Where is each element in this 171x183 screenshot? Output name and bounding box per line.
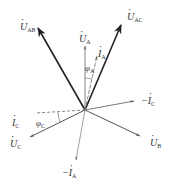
angle-arc-phi-a <box>85 78 92 79</box>
phasor-u-b <box>85 110 140 136</box>
phasor-u-ab <box>38 28 85 110</box>
phasor-neg-i-a <box>76 110 85 160</box>
label-u-c: UC <box>10 139 21 152</box>
label-u-ab: UAB <box>20 22 36 35</box>
angle-arc-phi-c <box>58 112 60 122</box>
phasor-i-c <box>36 110 85 113</box>
label-i-a: IA <box>98 49 106 62</box>
phasor-neg-i-c <box>85 101 134 110</box>
label-u-b: UB <box>150 138 161 151</box>
label-u-ac: UAC <box>127 12 143 25</box>
label-phi-a: φA <box>85 63 94 76</box>
label-neg-i-c: −IC <box>141 96 155 109</box>
label-phi-c: φC <box>36 118 45 131</box>
label-u-a: UA <box>79 34 91 47</box>
label-neg-i-a: −IA <box>62 168 76 181</box>
label-i-c: IC <box>12 118 19 131</box>
